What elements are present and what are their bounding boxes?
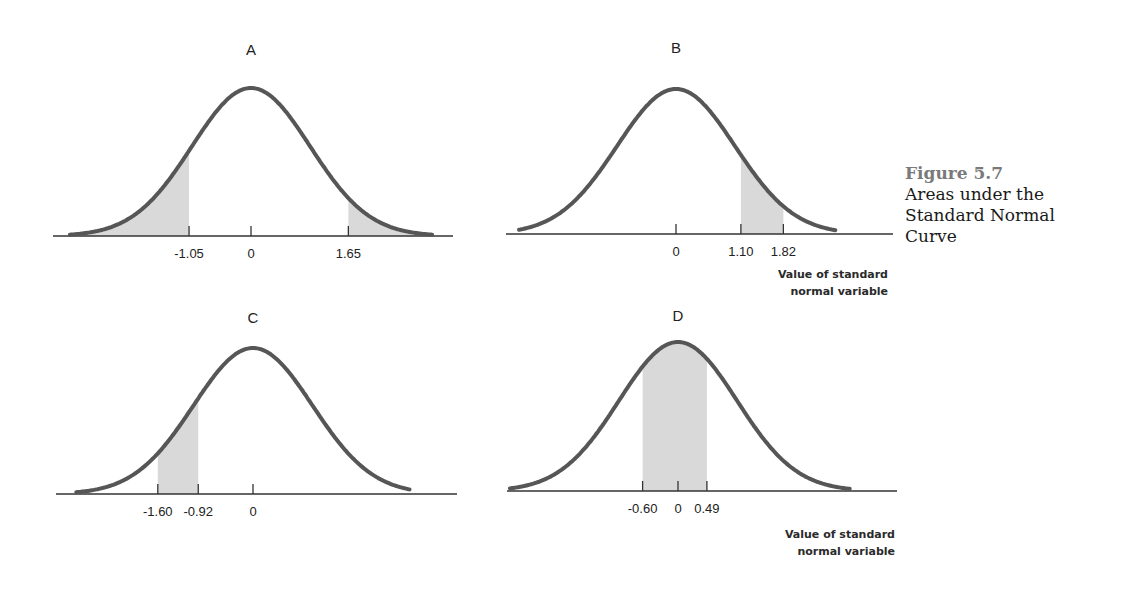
normal-curve xyxy=(519,89,835,230)
caption-line: Areas under the xyxy=(905,184,1055,205)
shaded-area xyxy=(70,151,189,236)
tick-label: 1.10 xyxy=(728,244,753,259)
tick-label: -1.05 xyxy=(174,246,204,261)
axis-note-line1: Value of standard xyxy=(767,526,895,543)
caption-line: Curve xyxy=(905,226,1055,247)
panel-c: -1.60-0.920C xyxy=(56,309,457,519)
tick-label: 0 xyxy=(672,244,679,259)
tick-label: 0.49 xyxy=(694,501,719,516)
panel-a: -1.0501.65A xyxy=(53,41,453,261)
normal-curves-figure: -1.0501.65A 01.101.82B -1.60-0.920C -0.6… xyxy=(0,0,1146,589)
figure-caption: Figure 5.7 Areas under the Standard Norm… xyxy=(905,163,1055,247)
tick-label: -0.60 xyxy=(628,501,658,516)
tick-label: 0 xyxy=(247,246,254,261)
axis-note-top: Value of standard normal variable xyxy=(760,266,888,300)
tick-label: 0 xyxy=(249,504,256,519)
tick-label: 1.82 xyxy=(771,244,796,259)
axis-note-line2: normal variable xyxy=(767,543,895,560)
shaded-area xyxy=(348,198,432,236)
axis-note-line2: normal variable xyxy=(760,283,888,300)
caption-line: Standard Normal xyxy=(905,205,1055,226)
normal-curve xyxy=(76,348,409,492)
panel-d: -0.6000.49D xyxy=(507,307,897,516)
panel-letter: B xyxy=(671,39,681,56)
panel-letter: A xyxy=(246,41,256,58)
axis-note-line1: Value of standard xyxy=(760,266,888,283)
tick-label: 1.65 xyxy=(336,246,361,261)
normal-curve xyxy=(70,88,432,235)
panel-letter: C xyxy=(248,309,259,326)
panel-b: 01.101.82B xyxy=(506,39,893,259)
axis-note-bottom: Value of standard normal variable xyxy=(767,526,895,560)
figure-number: Figure 5.7 xyxy=(905,163,1055,184)
tick-label: -1.60 xyxy=(143,504,173,519)
tick-label: -0.92 xyxy=(183,504,213,519)
tick-label: 0 xyxy=(674,501,681,516)
panel-letter: D xyxy=(673,307,684,324)
shaded-area xyxy=(643,342,707,491)
